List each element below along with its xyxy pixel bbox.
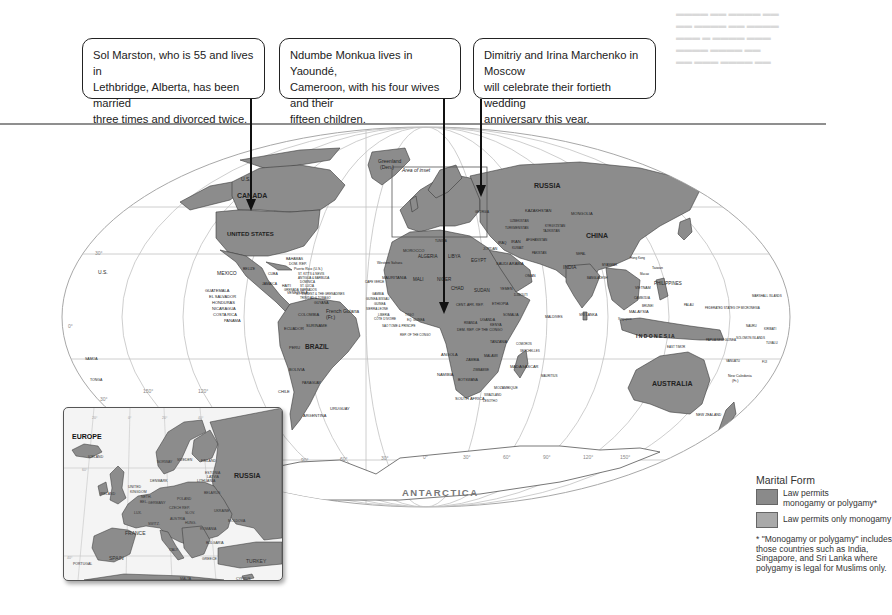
inset-label-denmark: DENMARK xyxy=(150,479,168,483)
label-colombia: COLOMBIA xyxy=(298,312,319,317)
label-yemen: YEMEN xyxy=(500,287,513,291)
lat-tick: 30° xyxy=(95,250,103,256)
label-panama: PANAMA xyxy=(224,318,241,323)
label-djibouti: DJIBOUTI xyxy=(514,293,528,297)
inset-title: EUROPE xyxy=(72,433,102,440)
label-madagascar: MADAGASCAR xyxy=(510,364,539,369)
europe-inset-svg: ICELAND NORWAY SWEDEN FINLAND ESTONIA LA… xyxy=(64,408,282,580)
label-jamaica: JAMAICA xyxy=(262,282,278,286)
label-saudi-arabia: SAUDI ARABIA xyxy=(496,261,524,266)
label-us-hawaii: U.S. xyxy=(98,269,108,275)
label-samoa: SAMOA xyxy=(85,357,98,361)
label-swaziland: SWAZILAND xyxy=(484,393,502,397)
inset-label-switz: SWITZ. xyxy=(148,522,160,526)
lon-tick: 60° xyxy=(503,454,511,460)
label-kazakhstan: KAZAKHSTAN xyxy=(525,208,551,213)
label-malawi: MALAWI xyxy=(484,354,498,358)
inset-label-turkey: TURKEY xyxy=(246,558,267,564)
inset-label-kingdom: KINGDOM xyxy=(130,490,147,494)
label-marshall: MARSHALL ISLANDS xyxy=(752,294,782,298)
label-comoros: COMOROS xyxy=(516,342,532,346)
inset-label-france: FRANCE xyxy=(125,530,146,536)
label-solomon: SOLOMON ISLANDS xyxy=(736,336,765,340)
label-libya: LIBYA xyxy=(448,254,460,259)
label-united-states: UNITED STATES xyxy=(227,231,274,237)
lat-tick: 0° xyxy=(68,323,73,329)
label-trinidad: TRINIDAD & TOBAGO xyxy=(300,296,331,300)
inset-label-united: UNITED xyxy=(128,485,142,489)
label-philippines: PHILIPPINES xyxy=(654,281,682,286)
arrowhead-yaounde xyxy=(439,302,449,314)
arrowhead-lethbridge xyxy=(246,199,256,211)
lon-tick: 150° xyxy=(143,388,153,394)
inset-label-lux: LUX. xyxy=(134,511,142,515)
label-el-salvador: EL SALVADOR xyxy=(209,294,236,299)
inset-label-lithuania: LITHUANIA xyxy=(197,479,216,483)
arrowhead-moscow xyxy=(476,185,486,197)
legend-item-polygamy: Law permits monogamy or polygamy* xyxy=(756,489,826,508)
label-iran: IRAN xyxy=(511,239,521,244)
legend-swatch-monogamy xyxy=(756,512,778,528)
label-angola: ANGOLA xyxy=(441,352,458,357)
label-sierra-leone: SIERRA LEONE xyxy=(366,307,388,311)
north-africa-inset xyxy=(84,574,224,580)
label-algeria: ALGERIA xyxy=(418,254,438,259)
label-chile: CHILE xyxy=(278,389,290,394)
label-suriname: SURINAME xyxy=(306,323,327,328)
label-lesotho: LESOTHO xyxy=(483,399,498,403)
inset-label-portugal: PORTUGAL xyxy=(73,562,92,566)
label-kenya: KENYA xyxy=(490,323,502,327)
label-pakistan: PAKISTAN xyxy=(532,251,546,255)
label-kuwait: KUWAIT xyxy=(512,246,524,250)
label-cape-verde: CAPE VERDE xyxy=(365,280,384,284)
label-namibia: NAMIBIA xyxy=(437,372,454,377)
label-french-guiana-sub: (Fr.) xyxy=(326,314,335,320)
label-nauru: NAURU xyxy=(746,324,757,328)
inset-label-poland: POLAND xyxy=(177,497,192,501)
inset-label-romania: ROMANIA xyxy=(200,527,217,531)
inset-label-spain: SPAIN xyxy=(109,555,124,561)
label-puerto-rico: Puerto Rico (U.S.) xyxy=(294,267,322,271)
label-east-timor: EAST TIMOR xyxy=(667,345,686,349)
label-oman: OMAN xyxy=(525,274,536,278)
label-guinea: GUINEA xyxy=(374,302,386,306)
label-cambodia: CAMBODIA xyxy=(634,296,650,300)
label-mauritania: MAURITANIA xyxy=(382,275,407,280)
label-ecuador: ECUADOR xyxy=(284,326,304,331)
label-bolivia: BOLIVIA xyxy=(289,367,305,372)
label-canada: CANADA xyxy=(237,192,267,199)
label-sri-lanka: SRI LANKA xyxy=(579,313,598,317)
inset-label-neth: NETH. xyxy=(141,495,152,499)
inset-label-ukraine: UKRAINE xyxy=(214,509,230,513)
pointer-line-lethbridge xyxy=(250,99,252,201)
label-somalia: SOMALIA xyxy=(503,313,519,317)
pointer-line-moscow xyxy=(480,99,482,187)
inset-label-bel: BEL. xyxy=(140,500,148,504)
label-myanmar: MYANMAR xyxy=(602,263,618,267)
lat-tick: 30° xyxy=(100,396,108,402)
label-greenland-sub: (Den.) xyxy=(380,164,394,170)
inset-label-slovakia: SLOV. xyxy=(185,511,195,515)
inset-lon-tick: 40° xyxy=(198,416,204,420)
label-antarctica: ANTARCTICA xyxy=(402,487,479,498)
label-egypt: EGYPT xyxy=(471,258,487,263)
inset-lon-tick: 0° xyxy=(128,416,132,420)
label-mongolia: MONGOLIA xyxy=(571,211,593,216)
inset-label-iceland: ICELAND xyxy=(88,455,104,459)
inset-label-norway: NORWAY xyxy=(157,460,173,464)
label-iraq: IRAQ xyxy=(498,241,507,245)
label-cuba: CUBA xyxy=(268,272,278,276)
label-georgia: GEORGIA xyxy=(475,210,489,214)
label-indonesia: I N D O N E S I A xyxy=(636,333,675,339)
label-new-caledonia: New Caledonia xyxy=(728,374,752,378)
lon-tick: 90° xyxy=(301,457,309,463)
label-uganda: UGANDA xyxy=(480,318,496,322)
label-uzbekistan: UZBEKISTAN xyxy=(510,219,529,223)
label-mali: MALI xyxy=(413,277,424,282)
label-venezuela: VENEZUELA xyxy=(287,291,308,295)
pointer-line-yaounde xyxy=(443,99,445,304)
legend-title: Marital Form xyxy=(756,474,826,486)
label-hong-kong: Hong Kong xyxy=(630,256,645,260)
legend-item-monogamy: Law permits only monogamy xyxy=(756,512,826,528)
label-tunisia: TUNISIA xyxy=(435,239,447,243)
